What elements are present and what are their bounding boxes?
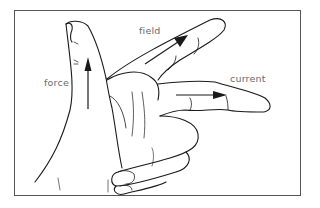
current-label: current bbox=[230, 73, 266, 84]
force-label: force bbox=[44, 77, 69, 88]
field-label: field bbox=[139, 25, 161, 36]
force-arrow bbox=[85, 57, 92, 109]
thumb-outline bbox=[35, 21, 106, 182]
third-finger-outline bbox=[112, 116, 199, 186]
current-arrow bbox=[176, 91, 227, 99]
palm-outline bbox=[107, 72, 159, 100]
